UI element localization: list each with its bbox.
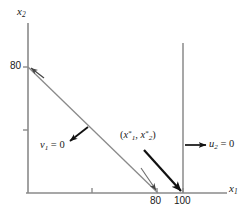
diagram-svg	[0, 0, 250, 217]
x-axis-label: x1	[229, 183, 238, 195]
y-axis-label-sub: 2	[22, 10, 26, 19]
annotation-u2: u2 = 0	[209, 139, 234, 151]
optimum-close-paren: )	[152, 129, 156, 140]
y-axis-label: x2	[17, 6, 26, 18]
v1-pointer-arrow	[70, 127, 88, 141]
annotation-u2-eq: = 0	[218, 138, 234, 149]
annotation-v1: v1 = 0	[40, 140, 65, 152]
annotation-optimum-point: (x*1, x*2)	[120, 130, 156, 142]
annotation-v1-eq: = 0	[48, 139, 64, 150]
x-tick-label-80: 80	[150, 196, 161, 206]
x-axis-label-sub: 1	[234, 187, 238, 196]
y-tick-label-80: 80	[10, 61, 21, 71]
x-tick-label-100: 100	[174, 196, 191, 206]
figure-canvas: x2 x1 80 80 100 v1 = 0 u2 = 0 (x*1, x*2)	[0, 0, 250, 217]
